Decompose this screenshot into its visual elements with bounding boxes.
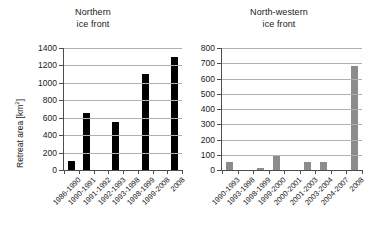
- x-axis-tick: [315, 170, 316, 174]
- x-axis-tick: [167, 170, 168, 174]
- y-axis-tick-label: 800: [43, 96, 57, 105]
- y-axis-tick-label: 0: [52, 166, 57, 175]
- plot-area-north-western: 01002003004005006007008001990-19931993-1…: [221, 48, 362, 171]
- y-axis-tick-label: 300: [201, 120, 215, 129]
- gridline: [222, 79, 362, 80]
- gridline: [222, 63, 362, 64]
- gridline: [222, 155, 362, 156]
- bar: [142, 74, 149, 170]
- y-axis-tick: [217, 94, 222, 95]
- y-axis-tick: [59, 100, 64, 101]
- bar: [83, 113, 90, 170]
- bar: [257, 168, 264, 170]
- x-axis-tick: [346, 170, 347, 174]
- y-axis-tick: [217, 48, 222, 49]
- x-axis-tick: [238, 170, 239, 174]
- gridline: [64, 100, 182, 101]
- y-axis-tick: [59, 135, 64, 136]
- x-axis-tick-label: 2008: [348, 176, 365, 193]
- x-axis-tick: [138, 170, 139, 174]
- chart-panel-northern: Northern ice front Retreat area [km2] 02…: [0, 0, 186, 238]
- gridline: [64, 83, 182, 84]
- chart-title-line1: North-western: [250, 7, 308, 17]
- x-axis-tick: [269, 170, 270, 174]
- gridline: [64, 118, 182, 119]
- chart-title-line1: Northern: [75, 7, 111, 17]
- y-axis-tick-label: 500: [201, 90, 215, 99]
- x-axis-tick: [153, 170, 154, 174]
- gridline: [64, 135, 182, 136]
- gridline: [222, 94, 362, 95]
- y-axis-tick: [59, 153, 64, 154]
- y-axis-tick-label: 600: [201, 74, 215, 83]
- y-axis-tick: [59, 83, 64, 84]
- y-axis-tick-label: 700: [201, 59, 215, 68]
- bar: [304, 162, 311, 170]
- y-axis-tick: [217, 79, 222, 80]
- bar: [112, 122, 119, 170]
- y-axis-tick-label: 1400: [38, 44, 57, 53]
- y-axis-tick-label: 0: [210, 166, 215, 175]
- x-axis-tick: [300, 170, 301, 174]
- x-axis-tick: [108, 170, 109, 174]
- y-axis-label-superscript: 2: [14, 101, 20, 104]
- y-axis-tick: [217, 140, 222, 141]
- plot-area-northern: 02004006008001000120014001986-19901990-1…: [63, 48, 182, 171]
- chart-title-line2: ice front: [186, 18, 372, 30]
- y-axis-tick-label: 1200: [38, 61, 57, 70]
- x-axis-tick: [123, 170, 124, 174]
- y-axis-tick-label: 800: [201, 44, 215, 53]
- y-axis-tick-label: 400: [201, 105, 215, 114]
- y-axis-label: Retreat area [km2]: [14, 99, 25, 168]
- bar: [226, 162, 233, 170]
- gridline: [222, 109, 362, 110]
- y-axis-tick: [59, 48, 64, 49]
- y-axis-tick: [59, 118, 64, 119]
- bar: [273, 155, 280, 170]
- y-axis-tick-label: 100: [201, 151, 215, 160]
- gridline: [222, 124, 362, 125]
- x-axis-tick: [94, 170, 95, 174]
- chart-panel-north-western: North-western ice front 0100200300400500…: [186, 0, 372, 238]
- chart-title-line2: ice front: [0, 18, 186, 30]
- chart-title-north-western: North-western ice front: [186, 6, 372, 30]
- y-axis-tick: [217, 155, 222, 156]
- retreat-area-figure: Northern ice front Retreat area [km2] 02…: [0, 0, 372, 238]
- y-axis-tick-label: 600: [43, 113, 57, 122]
- bar: [320, 162, 327, 170]
- gridline: [64, 48, 182, 49]
- x-axis-tick: [64, 170, 65, 174]
- y-axis-tick-label: 200: [201, 135, 215, 144]
- x-axis-tick-label: 2008: [169, 176, 186, 193]
- bar: [68, 161, 75, 170]
- chart-title-northern: Northern ice front: [0, 6, 186, 30]
- y-axis-tick-label: 1000: [38, 79, 57, 88]
- y-axis-tick-label: 400: [43, 131, 57, 140]
- x-axis-tick: [284, 170, 285, 174]
- x-axis-tick: [331, 170, 332, 174]
- x-axis-tick: [222, 170, 223, 174]
- x-axis-tick: [362, 170, 363, 174]
- gridline: [222, 140, 362, 141]
- x-axis-tick: [253, 170, 254, 174]
- x-axis-tick: [79, 170, 80, 174]
- y-axis-tick: [217, 63, 222, 64]
- y-axis-tick-label: 200: [43, 148, 57, 157]
- y-axis-tick: [217, 109, 222, 110]
- gridline: [64, 65, 182, 66]
- x-axis-tick: [182, 170, 183, 174]
- y-axis-tick: [217, 124, 222, 125]
- gridline: [222, 48, 362, 49]
- y-axis-tick: [59, 65, 64, 66]
- gridline: [64, 153, 182, 154]
